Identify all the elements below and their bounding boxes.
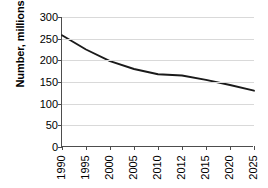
y-axis-tick-label: 50 — [46, 120, 58, 131]
y-axis-tick-label: 300 — [40, 12, 58, 23]
y-axis-tick-mark — [58, 60, 62, 61]
y-axis-title: Number, millions — [14, 0, 26, 99]
y-axis-tick-label: 200 — [40, 55, 58, 66]
gridline — [62, 82, 254, 83]
y-axis-tick-label: 100 — [40, 99, 58, 110]
line-chart: Number, millions 050100150200250300 1990… — [0, 0, 268, 188]
gridline — [62, 125, 254, 126]
y-axis-tick-mark — [58, 39, 62, 40]
gridline — [62, 17, 254, 18]
gridline — [62, 60, 254, 61]
gridline — [62, 39, 254, 40]
y-axis-tick-mark — [58, 104, 62, 105]
y-axis-tick-label: 250 — [40, 34, 58, 45]
y-axis-tick-mark — [58, 17, 62, 18]
x-axis-tick-labels: 199019952000200520102012201520202025 — [61, 149, 253, 188]
y-axis-tick-mark — [58, 82, 62, 83]
y-axis-tick-label: 150 — [40, 77, 58, 88]
plot-area — [61, 17, 253, 147]
x-axis-tick-label: 2025 — [236, 149, 268, 173]
gridline — [62, 104, 254, 105]
y-axis-tick-mark — [58, 125, 62, 126]
